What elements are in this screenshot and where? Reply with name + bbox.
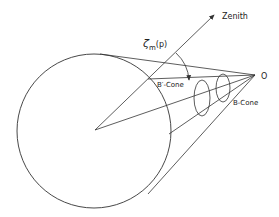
observer-label: O — [261, 72, 267, 81]
planet-circle — [17, 54, 171, 208]
zenith-angle-label: ζm(p) — [142, 37, 167, 52]
zenith-label: Zenith — [222, 12, 248, 21]
lower-tangent-line — [148, 75, 255, 194]
b-prime-cone-label: B′-Cone — [157, 81, 184, 89]
zenith-angle-arc — [176, 53, 189, 80]
b-prime-cone-upper-line — [148, 75, 255, 79]
b-prime-cone-ellipse — [194, 80, 210, 116]
zenith-axis-line — [95, 15, 214, 130]
upper-tangent-line — [100, 54, 255, 75]
cone-geometry-diagram: Zenith ζm(p) O B′-Cone B-Cone — [0, 0, 279, 217]
b-cone-label: B-Cone — [233, 99, 258, 107]
